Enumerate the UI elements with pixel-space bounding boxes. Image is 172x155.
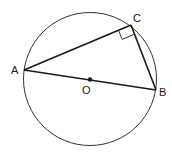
diagram-svg: A B C O [0, 0, 172, 155]
segment-ac [24, 25, 131, 70]
label-o: O [82, 84, 91, 96]
label-c: C [133, 12, 141, 24]
right-angle-marker [119, 30, 135, 39]
center-point [88, 77, 92, 81]
segment-cb [131, 25, 156, 90]
label-b: B [159, 86, 166, 98]
geometry-diagram: A B C O [0, 0, 172, 155]
label-a: A [11, 64, 19, 76]
